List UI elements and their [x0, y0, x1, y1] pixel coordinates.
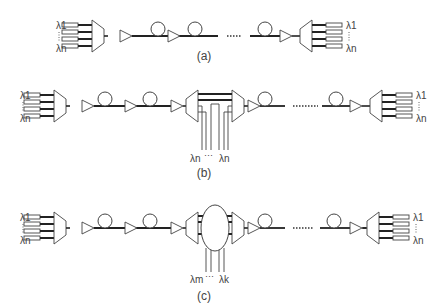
- caption-a: (a): [197, 49, 212, 63]
- fiber-spool-icon: [143, 92, 157, 106]
- tx-label-bottom: λn: [20, 113, 31, 124]
- tx-label-top: λ1: [20, 212, 31, 223]
- rx-array-c: [363, 212, 409, 244]
- oadm-label-right: λn: [219, 153, 230, 164]
- oxc-label-right: λk: [219, 274, 230, 285]
- amplifier-icon: [125, 222, 137, 234]
- fiber-spool-icon: [151, 22, 165, 36]
- fiber-spool-icon: [258, 22, 272, 36]
- panel-b: λn ··· λn (b) λ1 λn λ1 λn: [20, 90, 427, 180]
- tx-array-b: [24, 90, 70, 122]
- fiber-spool-icon: [143, 214, 157, 228]
- fiber-spool-icon: [98, 92, 112, 106]
- rx-label-top: λ1: [416, 90, 427, 101]
- caption-c: (c): [197, 289, 211, 303]
- add-drop-multiplexer: [186, 90, 244, 150]
- amplifier-icon: [350, 100, 362, 112]
- rx-label-top: λ1: [413, 212, 424, 223]
- wdm-network-diagram: λ1 λn λ1 λn (a) λn ···: [0, 0, 445, 307]
- tx-label-bottom: λn: [56, 43, 67, 54]
- panel-c: λm ··· λk (c) λ1 λn λ1 λn: [20, 205, 424, 303]
- tx-label-top: λ1: [56, 20, 67, 31]
- rx-label-bottom: λn: [346, 43, 357, 54]
- fiber-spool-icon: [258, 214, 272, 228]
- tx-label-top: λ1: [20, 90, 31, 101]
- oadm-label-dots: ···: [204, 150, 213, 160]
- fiber-spool-icon: [258, 92, 272, 106]
- rx-label-bottom: λn: [416, 113, 427, 124]
- amplifier-icon: [280, 30, 292, 42]
- rx-label-bottom: λn: [413, 235, 424, 246]
- amplifier-icon: [82, 222, 94, 234]
- fiber-spool-icon: [327, 214, 341, 228]
- fiber-spool-icon: [188, 22, 202, 36]
- amplifier-icon: [168, 30, 180, 42]
- tx-array-c: [24, 212, 70, 244]
- oxc-label-left: λm: [190, 274, 203, 285]
- oadm-label-left: λn: [190, 153, 201, 164]
- tx-array-a: [62, 20, 108, 52]
- rx-label-top: λ1: [346, 20, 357, 31]
- tx-label-bottom: λn: [20, 235, 31, 246]
- amplifier-icon: [350, 222, 362, 234]
- amplifier-icon: [125, 100, 137, 112]
- oxc-label-dots: ···: [205, 271, 214, 281]
- rx-array-b: [366, 90, 412, 122]
- amplifier-icon: [82, 100, 94, 112]
- amplifier-icon: [171, 100, 183, 112]
- fiber-spool-icon: [98, 214, 112, 228]
- rx-array-a: [296, 20, 342, 52]
- caption-b: (b): [197, 166, 212, 180]
- panel-a: λ1 λn λ1 λn (a): [56, 20, 357, 63]
- amplifier-icon: [120, 30, 132, 42]
- amplifier-icon: [171, 222, 183, 234]
- fiber-spool-icon: [329, 92, 343, 106]
- optical-cross-connect: [186, 205, 244, 272]
